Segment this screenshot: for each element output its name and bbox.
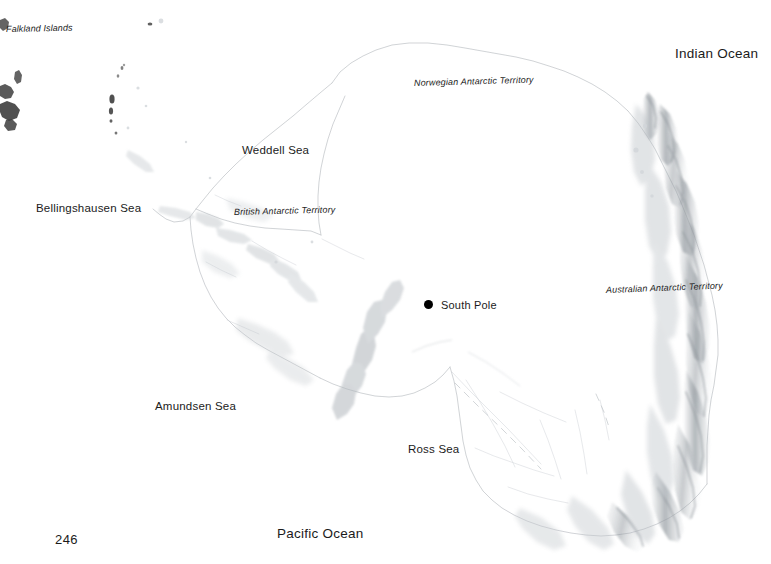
page-number: 246: [55, 533, 78, 546]
islands-group: [0, 18, 163, 135]
map-label-amundsen-sea: Amundsen Sea: [155, 401, 236, 413]
ice-front-dashes: [455, 383, 610, 469]
peninsula-shapes: [126, 150, 318, 302]
south-pole-marker-icon: [424, 300, 433, 309]
map-label-bellingshausen-sea: Bellingshausen Sea: [36, 203, 141, 215]
map-label-ross-sea: Ross Sea: [408, 444, 459, 456]
faint-specks: [127, 86, 654, 263]
map-label-south-pole: South Pole: [441, 300, 497, 311]
map-label-pacific-ocean: Pacific Ocean: [277, 527, 364, 541]
map-page: Falkland Islands Indian Ocean Norwegian …: [0, 0, 771, 564]
relief-inland-shading: [515, 104, 680, 550]
map-label-weddell-sea: Weddell Sea: [242, 145, 309, 157]
antarctica-map-graphic: [0, 0, 771, 564]
map-label-indian-ocean: Indian Ocean: [675, 47, 758, 61]
map-label-falkland-islands: Falkland Islands: [6, 24, 73, 34]
